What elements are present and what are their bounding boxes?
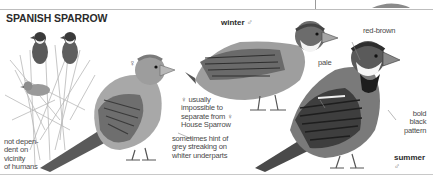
- female-symbol: ♀: [129, 58, 136, 68]
- male-symbol: ♂: [247, 18, 253, 27]
- pale-note: pale: [318, 59, 332, 67]
- red-brown-note: red-brown: [363, 27, 395, 35]
- female-note-line: House Sparrow: [181, 121, 233, 129]
- vignette-male-right-icon: [60, 32, 78, 64]
- plumage-name: summer: [394, 153, 425, 162]
- habitat-note: not depen- dent on vicinity of humans: [4, 138, 38, 172]
- vignette-female-icon: [20, 82, 50, 97]
- female-streaking-note: sometimes hint of grey streaking on whit…: [172, 135, 228, 160]
- bold-note-line: pattern: [404, 127, 426, 135]
- partial-bird-top-icon: [372, 4, 410, 9]
- habitat-note-line: of humans: [4, 163, 38, 171]
- winter-male-label: winter ♂: [221, 18, 253, 27]
- streaking-note-line: whiter underparts: [172, 152, 228, 160]
- male-symbol: ♂: [394, 162, 400, 171]
- vignette-male-left-icon: [30, 32, 48, 64]
- female-identification-note: ♀ usually impossible to separate from ♀ …: [181, 96, 233, 130]
- species-title: SPANISH SPARROW: [6, 12, 107, 24]
- plumage-name: winter: [221, 18, 245, 27]
- summer-male-label: summer ♂: [394, 153, 433, 171]
- bold-black-note: bold black pattern: [404, 110, 426, 135]
